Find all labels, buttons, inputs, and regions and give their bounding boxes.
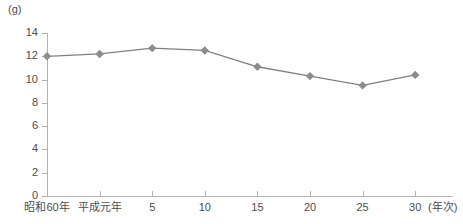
- data-point-marker: [358, 81, 366, 89]
- data-point-marker: [306, 72, 314, 80]
- series-plot: [0, 0, 463, 224]
- data-point-marker: [43, 52, 51, 60]
- line-chart: (g) 02468101214 昭和60年平成元年51015202530 (年次…: [0, 0, 463, 224]
- data-point-marker: [253, 63, 261, 71]
- x-axis-title: (年次): [428, 200, 457, 214]
- data-point-marker: [148, 44, 156, 52]
- data-point-marker: [201, 46, 209, 54]
- data-point-marker: [95, 50, 103, 58]
- series-markers: [43, 44, 420, 90]
- data-point-marker: [411, 71, 419, 79]
